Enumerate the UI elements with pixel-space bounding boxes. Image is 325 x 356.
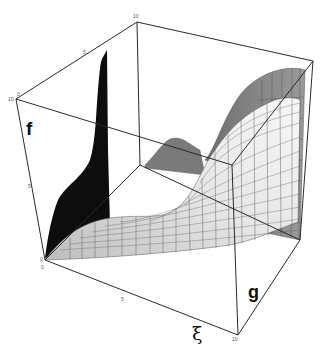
tick-front-10: 10 bbox=[232, 336, 238, 342]
axis-label-f: f bbox=[26, 118, 32, 140]
surface-plot bbox=[0, 0, 325, 356]
tick-top-left-10: 10 bbox=[8, 96, 14, 102]
axis-label-xi: ξ bbox=[192, 322, 202, 344]
axis-label-g: g bbox=[248, 282, 259, 303]
tick-left-5: 5 bbox=[28, 183, 31, 189]
tick-top-back-10: 10 bbox=[133, 13, 139, 19]
tick-origin-0a: 0 bbox=[40, 256, 43, 262]
gray-bump bbox=[145, 138, 205, 175]
tick-origin-0b: 0 bbox=[41, 264, 44, 270]
tick-top-back-5: 5 bbox=[83, 49, 86, 55]
tick-front-5: 5 bbox=[121, 296, 124, 302]
tick-top-left-0: 0 bbox=[17, 91, 20, 97]
